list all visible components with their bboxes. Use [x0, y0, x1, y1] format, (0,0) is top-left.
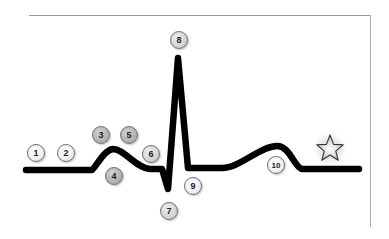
marker-3: 3: [92, 126, 110, 144]
marker-10: 10: [267, 156, 285, 174]
marker-4: 4: [105, 167, 123, 185]
marker-5: 5: [120, 126, 138, 144]
marker-6: 6: [142, 145, 160, 163]
marker-7: 7: [160, 202, 178, 220]
star-icon: [317, 135, 344, 162]
marker-9: 9: [184, 177, 202, 195]
marker-8: 8: [170, 31, 188, 49]
ecg-waveform-line: [26, 58, 359, 189]
ecg-diagram: [0, 0, 389, 239]
marker-1: 1: [27, 144, 45, 162]
marker-2: 2: [57, 144, 75, 162]
